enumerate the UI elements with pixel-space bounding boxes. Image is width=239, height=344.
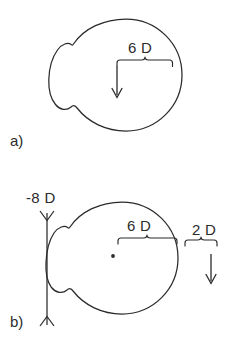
label-6d-panel-a: 6 D (128, 40, 152, 55)
label-minus-8d-panel-b: -8 D (26, 190, 56, 205)
panel-label-a: a) (10, 133, 23, 148)
label-2d-panel-b: 2 D (192, 222, 216, 237)
eyeball-outline-b (46, 202, 178, 314)
brace-6d-b (118, 235, 177, 244)
eyeball-outline-a (49, 19, 182, 131)
panel-label-b: b) (10, 314, 23, 329)
nodal-point-dot-b (111, 254, 115, 258)
panel-a-graphics (49, 19, 182, 131)
diagram-canvas (0, 0, 239, 344)
brace-6d-a (117, 57, 173, 67)
label-6d-panel-b: 6 D (127, 218, 151, 233)
eye-optics-figure: 6 D -8 D 6 D 2 D a) b) (0, 0, 239, 344)
brace-2d-b (185, 237, 217, 246)
